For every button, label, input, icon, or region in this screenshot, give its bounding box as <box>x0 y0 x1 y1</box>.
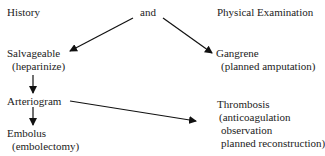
arrow-and-to-gangrene <box>163 18 212 53</box>
header-physical-examination: Physical Examination <box>217 6 313 18</box>
node-thrombosis-title: Thrombosis <box>217 98 270 110</box>
node-gangrene-detail: (planned amputation) <box>221 60 315 72</box>
node-thrombosis-detail-2: observation <box>221 124 272 136</box>
node-gangrene-title: Gangrene <box>216 47 259 59</box>
arrow-arteriogram-to-thrombosis <box>70 101 196 121</box>
header-history: History <box>7 6 40 18</box>
node-salvageable-detail: (heparinize) <box>12 60 65 72</box>
node-thrombosis-detail-3: planned reconstruction) <box>221 137 325 149</box>
header-and: and <box>140 6 156 18</box>
node-salvageable-title: Salvageable <box>7 47 60 59</box>
node-embolus-title: Embolus <box>7 127 46 139</box>
arrow-and-to-salvageable <box>70 18 133 51</box>
node-arteriogram-title: Arteriogram <box>7 95 61 107</box>
node-embolus-detail: (embolectomy) <box>12 140 79 152</box>
node-thrombosis-detail-1: (anticoagulation <box>219 111 290 123</box>
